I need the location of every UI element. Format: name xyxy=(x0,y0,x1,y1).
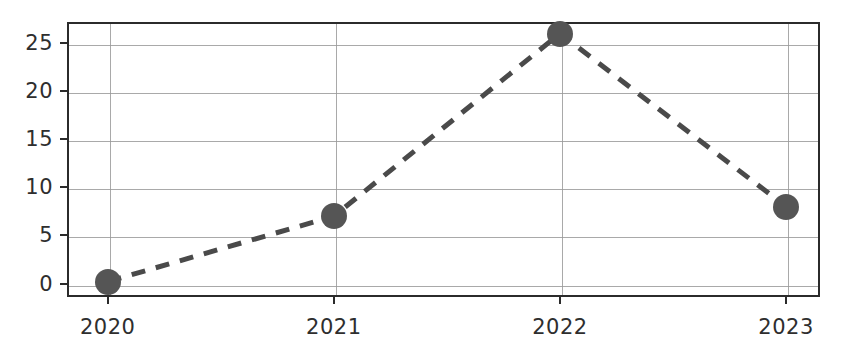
line-chart-figure: 0510152025 2020202120222023 xyxy=(0,0,853,358)
data-point-2022 xyxy=(547,21,573,47)
data-point-2021 xyxy=(321,203,347,229)
data-point-2023 xyxy=(773,194,799,220)
data-point-2020 xyxy=(95,269,121,295)
series-line xyxy=(0,0,853,358)
data-layer xyxy=(0,0,853,358)
